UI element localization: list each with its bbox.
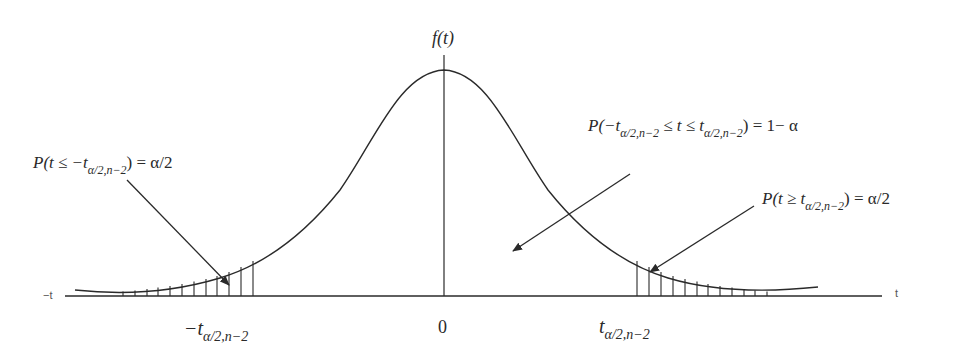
tick-label-pos-critical: tα/2,n−2	[599, 316, 650, 336]
annotation-subscript: α/2,n−2	[805, 199, 844, 213]
figure-graphics	[0, 0, 954, 355]
density-curve	[75, 70, 818, 292]
annotation-subscript: α/2,n−2	[620, 126, 659, 140]
tick-subscript: α/2,n−2	[203, 329, 248, 344]
tick-label-neg-critical: −tα/2,n−2	[184, 318, 248, 338]
t-distribution-figure: f(t) −t t −tα/2,n−2 0 tα/2,n−2 P(t ≤ −tα…	[0, 0, 954, 355]
right-tail-arrow	[650, 206, 754, 272]
annotation-text: P(t ≥ t	[762, 189, 805, 208]
x-axis-left-end-label: −t	[43, 290, 52, 301]
right-tail-annotation: P(t ≥ tα/2,n−2) = α/2	[762, 190, 890, 207]
annotation-text: ) = α/2	[127, 153, 173, 172]
tick-label-zero: 0	[438, 318, 447, 336]
tick-subscript: α/2,n−2	[605, 327, 650, 342]
left-tail-annotation: P(t ≤ −tα/2,n−2) = α/2	[33, 154, 172, 171]
center-region-annotation: P(−tα/2,n−2 ≤ t ≤ tα/2,n−2) = 1− α	[588, 117, 798, 134]
annotation-subscript: α/2,n−2	[88, 163, 127, 177]
y-axis-label: f(t)	[432, 29, 454, 47]
annotation-text: ) = 1− α	[743, 116, 798, 135]
annotation-text: ≤ t ≤ t	[659, 116, 704, 135]
left-tail-arrow	[127, 180, 229, 285]
annotation-text: ) = α/2	[844, 189, 890, 208]
annotation-subscript: α/2,n−2	[704, 126, 743, 140]
left-tail-hatching	[123, 261, 253, 296]
right-tail-hatching	[637, 261, 767, 296]
center-region-arrow	[513, 174, 630, 251]
tick-main: t	[599, 315, 605, 337]
x-axis-right-end-label: t	[895, 288, 898, 299]
annotation-text: P(−t	[588, 116, 620, 135]
annotation-text: P(t ≤ −t	[33, 153, 88, 172]
tick-main: −t	[184, 317, 203, 339]
